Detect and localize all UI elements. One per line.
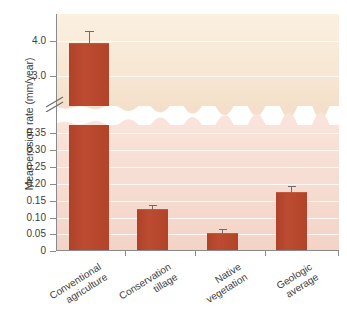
y-tick-label-0-30: 0.30 [27,144,46,155]
bar-conservation-tillage [137,209,168,251]
y-tick-0-35 [50,133,56,134]
y-axis-line [56,14,57,251]
y-tick-label-0-05: 0.05 [27,228,46,239]
y-tick-0-10 [50,218,56,219]
x-axis-label-conventional-agriculture: Conventional agriculture [0,261,109,312]
plot-area [57,14,339,251]
x-tick-1 [195,251,196,256]
y-tick-label-0-10: 0.10 [27,212,46,223]
y-tick-label-0-35: 0.35 [27,127,46,138]
bar-conventional-agriculture-upper [69,43,109,109]
y-tick-label-0-15: 0.15 [27,195,46,206]
y-tick-label-0-20: 0.20 [27,178,46,189]
axis-break-band [57,106,339,125]
bar-conventional-agriculture-lower [69,109,109,251]
y-axis-title: Mean erosion rate (mm/year) [23,24,35,224]
x-tick-2 [265,251,266,256]
y-tick-0-30 [50,150,56,151]
x-tick-0 [125,251,126,256]
bar-geologic-average [276,192,307,251]
y-tick-0-20 [50,184,56,185]
x-axis-line [56,250,339,251]
y-tick-3-0 [50,76,56,77]
y-tick-0-05 [50,234,56,235]
y-tick-0-25 [50,167,56,168]
y-tick-label-0-25: 0.25 [27,161,46,172]
y-tick-4-0 [50,41,56,42]
x-tick-3 [338,251,339,256]
gridline-4-0 [57,41,339,42]
y-tick-label-0: 0 [40,245,46,256]
y-tick-label-3-0: 3.0 [32,70,46,81]
bar-native-vegetation [207,233,238,251]
y-tick-label-4-0: 4.0 [32,35,46,46]
y-tick-0-15 [50,201,56,202]
axis-break-slash-icon [44,96,70,112]
y-tick-0 [50,251,56,252]
erosion-rate-bar-chart: Mean erosion rate (mm/year) [0,0,347,312]
